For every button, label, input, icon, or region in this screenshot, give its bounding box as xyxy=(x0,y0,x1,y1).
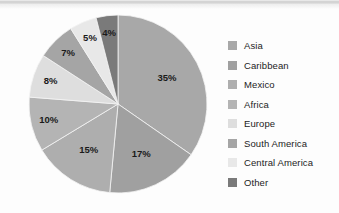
pie-slice-label: 8% xyxy=(44,75,58,86)
legend-color-swatch xyxy=(228,100,237,109)
pie-slice-label: 7% xyxy=(61,47,75,58)
pie-slice-label: 5% xyxy=(83,32,97,43)
pie-slice-label: 4% xyxy=(102,27,116,38)
legend-color-swatch xyxy=(228,41,237,50)
legend-item-label: Mexico xyxy=(244,79,275,90)
legend-item-label: Caribbean xyxy=(244,60,289,71)
pie-slice-label: 35% xyxy=(157,72,177,83)
pie-chart-svg: 35%17%15%10%8%7%5%4% xyxy=(28,14,208,194)
scan-artifact-band-soft xyxy=(0,5,339,9)
legend-item[interactable]: Asia xyxy=(228,36,336,56)
legend-item[interactable]: Other xyxy=(228,173,336,193)
legend-color-swatch xyxy=(228,119,237,128)
pie-slice-label: 17% xyxy=(132,148,152,159)
legend-item[interactable]: Mexico xyxy=(228,75,336,95)
legend-item[interactable]: Africa xyxy=(228,95,336,115)
legend-color-swatch xyxy=(228,158,237,167)
legend-item-label: Africa xyxy=(244,99,269,110)
legend-item-label: South America xyxy=(244,138,307,149)
legend-item[interactable]: South America xyxy=(228,134,336,154)
legend-item-label: Other xyxy=(244,177,268,188)
pie-slice-group xyxy=(29,15,207,193)
pie-slice-label: 15% xyxy=(79,144,99,155)
pie-chart-figure: 35%17%15%10%8%7%5%4% xyxy=(28,14,208,194)
legend-color-swatch xyxy=(228,178,237,187)
legend-item[interactable]: Caribbean xyxy=(228,56,336,76)
legend-color-swatch xyxy=(228,80,237,89)
chart-legend: AsiaCaribbeanMexicoAfricaEuropeSouth Ame… xyxy=(228,36,336,192)
legend-color-swatch xyxy=(228,139,237,148)
legend-item[interactable]: Central America xyxy=(228,153,336,173)
pie-slice-label: 10% xyxy=(39,114,59,125)
legend-color-swatch xyxy=(228,61,237,70)
legend-item[interactable]: Europe xyxy=(228,114,336,134)
legend-item-label: Central America xyxy=(244,157,313,168)
legend-item-label: Europe xyxy=(244,118,275,129)
pie-chart-page: 35%17%15%10%8%7%5%4% AsiaCaribbeanMexico… xyxy=(0,0,339,213)
legend-item-label: Asia xyxy=(244,40,263,51)
